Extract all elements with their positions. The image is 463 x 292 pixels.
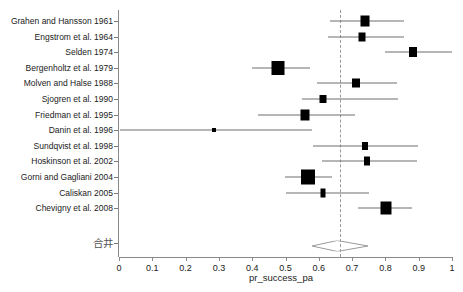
study-label-column: Grahen and Hansson 1961Engstrom et al. 1… [0,0,113,292]
x-axis-tick-label: 0.6 [313,263,326,273]
effect-size-box [364,157,370,166]
x-axis-tick-label: 0.3 [213,263,226,273]
effect-size-box [301,170,315,185]
study-label: Chevigny et al. 2008 [36,203,114,213]
effect-size-box [409,47,417,57]
x-axis-tick [219,257,220,261]
effect-size-box [361,16,370,27]
study-label: Engstrom et al. 1964 [35,32,113,42]
x-axis-tick [286,257,287,261]
forest-plot: Grahen and Hansson 1961Engstrom et al. 1… [0,0,463,292]
x-axis-tick [385,257,386,261]
y-axis-tick [114,21,118,22]
y-axis-line [118,10,119,257]
effect-size-box [301,109,310,120]
y-axis-tick [114,99,118,100]
study-label: Selden 1974 [65,47,113,57]
x-axis-title: pr_success_pa [249,272,313,283]
y-axis-tick [114,208,118,209]
x-axis-tick-label: 0.1 [146,263,159,273]
y-axis-tick [114,37,118,38]
effect-size-box [381,202,392,215]
study-label: Grahen and Hansson 1961 [11,16,113,26]
x-axis-tick [452,257,453,261]
x-axis-tick [119,257,120,261]
x-axis-tick-label: 1 [449,263,454,273]
effect-size-box [272,61,285,75]
y-axis-tick [114,52,118,53]
y-axis-tick [114,177,118,178]
x-axis-tick-label: 0.8 [379,263,392,273]
summary-diamond [312,238,368,249]
x-axis-tick [419,257,420,261]
study-label: Caliskan 2005 [59,188,113,198]
effect-size-box [321,188,326,197]
y-axis-tick-summary [114,243,118,244]
y-axis-tick [114,193,118,194]
x-axis-tick-label: 0.9 [412,263,425,273]
x-axis-tick-label: 0.7 [346,263,359,273]
x-axis-tick [319,257,320,261]
study-label: Sjogren et al. 1990 [42,94,113,104]
study-label: Gorni and Gagliani 2004 [21,172,113,182]
confidence-interval-line [328,36,404,37]
x-axis-tick [186,257,187,261]
confidence-interval-line [286,192,369,193]
effect-size-box [362,142,368,150]
y-axis-tick [114,83,118,84]
y-axis-tick [114,68,118,69]
x-axis-tick [352,257,353,261]
y-axis-tick [114,115,118,116]
summary-label: 合井 [93,237,113,249]
study-label: Hoskinson et al. 2002 [31,156,113,166]
effect-size-box [359,32,366,41]
effect-point-marker [212,128,216,132]
reference-line [340,10,341,257]
confidence-interval-line [302,99,398,100]
y-axis-tick [114,161,118,162]
x-axis-tick-label: 0 [116,263,121,273]
study-label: Danin et al. 1996 [49,125,113,135]
x-axis-tick [152,257,153,261]
x-axis-tick-label: 0.2 [179,263,192,273]
y-axis-tick [114,130,118,131]
confidence-interval-line [385,52,452,53]
effect-size-box [352,79,360,88]
study-label: Bergenholtz et al. 1979 [26,63,113,73]
x-axis-tick [252,257,253,261]
study-label: Sundqvist et al. 1998 [34,141,113,151]
y-axis-tick [114,146,118,147]
effect-size-box [320,95,327,103]
study-label: Friedman et al. 1995 [35,110,113,120]
study-label: Molven and Halse 1988 [24,78,113,88]
